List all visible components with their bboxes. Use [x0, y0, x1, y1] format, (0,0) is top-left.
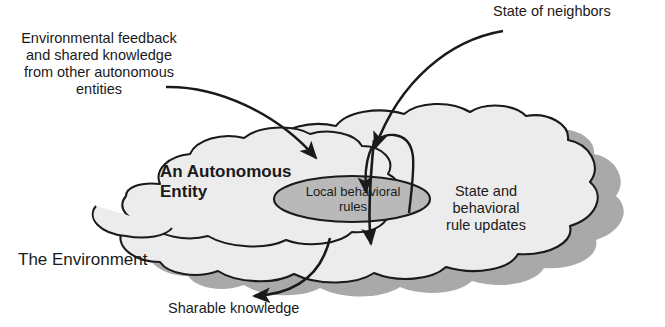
state-of-neighbors-label: State of neighbors: [493, 3, 653, 20]
sharable-knowledge-label: Sharable knowledge: [168, 300, 368, 317]
sharable-knowledge-arrow: [254, 238, 330, 296]
environmental-feedback-label: Environmental feedback and shared knowle…: [8, 30, 190, 98]
local-behavioral-rules-label: Local behavioral rules: [288, 184, 418, 215]
state-of-neighbors-arrow: [375, 31, 503, 148]
diagram-canvas: Environmental feedback and shared knowle…: [0, 0, 665, 327]
the-environment-label: The Environment: [18, 250, 238, 270]
state-and-rule-updates-label: State and behavioral rule updates: [427, 183, 545, 234]
